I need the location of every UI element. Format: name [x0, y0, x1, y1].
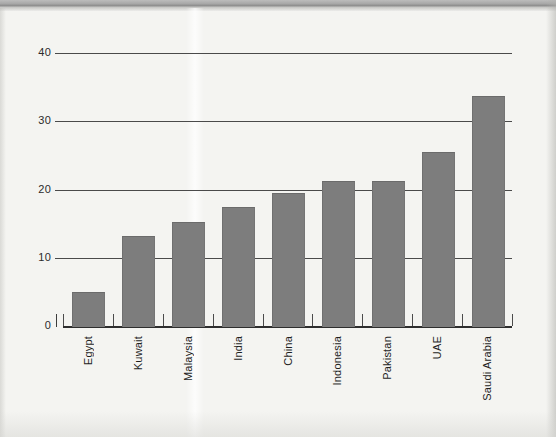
x-axis-tick — [63, 314, 64, 326]
x-axis-label: Pakistan — [381, 336, 393, 380]
x-axis-label: Saudi Arabia — [481, 336, 493, 401]
bar — [222, 207, 255, 327]
bar — [472, 96, 505, 327]
y-axis-tick-label: 0 — [11, 319, 51, 331]
x-axis-label: China — [282, 336, 294, 366]
y-axis-tick — [55, 190, 63, 191]
x-axis-label: Egypt — [82, 336, 94, 365]
bar-chart: 010203040 EgyptKuwaitMalaysiaIndiaChinaI… — [0, 0, 556, 437]
y-axis-tick — [55, 53, 63, 54]
y-axis-tick-label: 30 — [11, 114, 51, 126]
x-axis-tick — [263, 314, 264, 326]
y-axis-zero-tick — [56, 314, 57, 327]
bar — [272, 193, 305, 327]
x-axis-tick — [462, 314, 463, 326]
scanned-page: 010203040 EgyptKuwaitMalaysiaIndiaChinaI… — [0, 0, 556, 437]
bar — [372, 181, 405, 327]
x-axis-label: Malaysia — [182, 336, 194, 381]
y-axis-tick-label: 10 — [11, 251, 51, 263]
y-axis-tick-label: 40 — [11, 46, 51, 58]
x-axis-label: India — [232, 336, 244, 361]
y-axis-tick — [55, 258, 63, 259]
y-axis-tick — [55, 121, 63, 122]
x-axis-tick — [362, 314, 363, 326]
x-axis-tick — [163, 314, 164, 326]
x-axis-tick — [512, 314, 513, 326]
bar — [422, 152, 455, 327]
gridline — [63, 53, 512, 54]
x-axis-tick — [412, 314, 413, 326]
y-axis-tick-label: 20 — [11, 183, 51, 195]
x-axis-tick — [213, 314, 214, 326]
gridline — [63, 121, 512, 122]
x-axis-label: UAE — [431, 336, 443, 359]
bar — [322, 181, 355, 327]
x-axis-tick — [113, 314, 114, 326]
x-axis-label: Kuwait — [132, 336, 144, 370]
x-axis-label: Indonesia — [331, 336, 343, 386]
x-axis-tick — [312, 314, 313, 326]
bar — [122, 236, 155, 327]
bar — [72, 292, 105, 327]
bar — [172, 222, 205, 327]
